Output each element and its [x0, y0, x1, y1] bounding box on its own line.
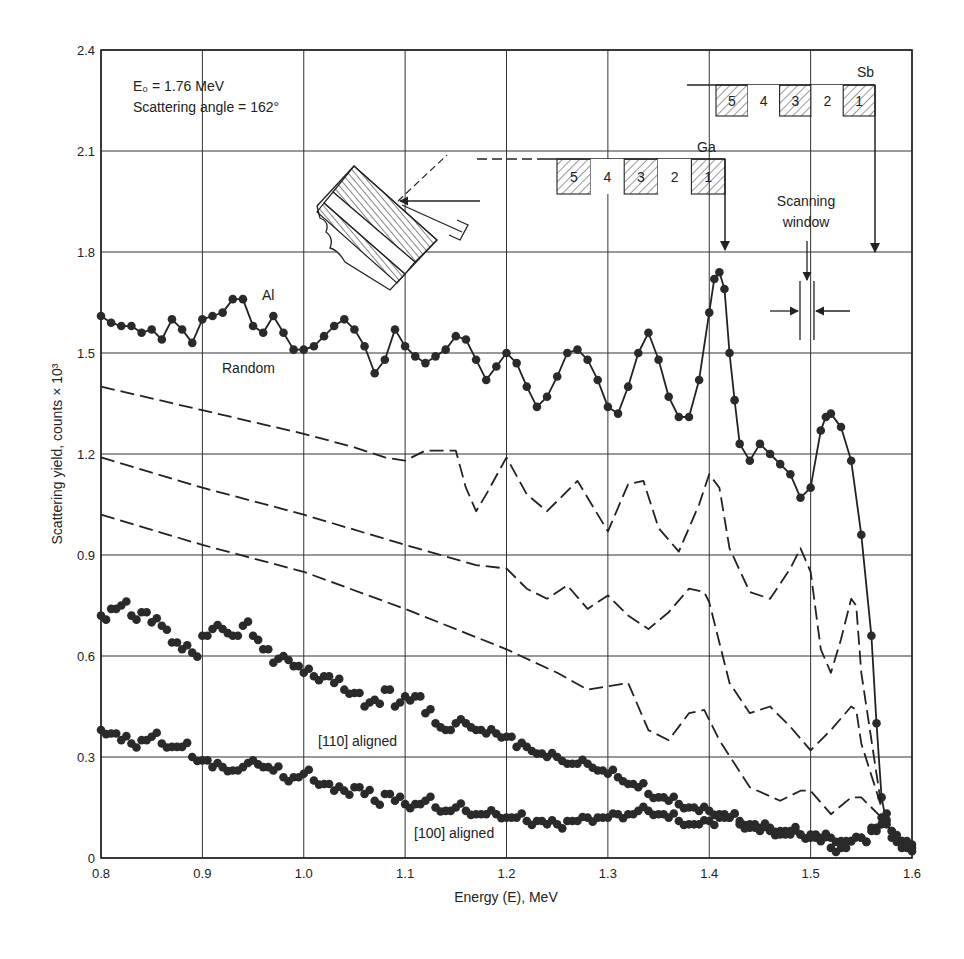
y-tick-label: 2.1	[77, 144, 95, 159]
label-random: Random	[222, 360, 275, 376]
x-tick-label: 1.0	[295, 866, 313, 881]
layer-number: 1	[855, 93, 863, 109]
layer-number: 5	[570, 169, 578, 185]
y-axis-ticks: 00.30.60.91.21.51.82.12.4	[77, 43, 95, 866]
dashed-curve	[101, 387, 882, 808]
y-tick-label: 1.5	[77, 346, 95, 361]
scanning-window-marker	[770, 241, 850, 340]
label-100-aligned: [100] aligned	[414, 825, 494, 841]
x-tick-label: 1.6	[903, 866, 921, 881]
layer-number: 2	[823, 93, 831, 109]
layer-number: 1	[704, 169, 712, 185]
y-tick-label: 1.2	[77, 447, 95, 462]
y-tick-label: 0.9	[77, 548, 95, 563]
x-tick-label: 1.3	[599, 866, 617, 881]
label-110-aligned: [110] aligned	[318, 733, 397, 749]
label-al: Al	[262, 287, 274, 303]
y-tick-label: 0.6	[77, 649, 95, 664]
y-tick-label: 0.3	[77, 750, 95, 765]
annotation-angle: Scattering angle = 162°	[133, 99, 279, 115]
label-scanning: Scanning	[777, 193, 835, 209]
sample-schematic-icon	[317, 155, 480, 290]
x-tick-label: 1.2	[497, 866, 515, 881]
x-axis-ticks: 0.80.91.01.11.21.31.41.51.6	[92, 866, 921, 881]
x-tick-label: 0.9	[193, 866, 211, 881]
annotation-e0: E₀ = 1.76 MeV	[133, 78, 225, 94]
layer-number: 4	[760, 93, 768, 109]
layer-number: 2	[671, 169, 679, 185]
layer-number: 3	[637, 169, 645, 185]
y-tick-label: 0	[88, 851, 95, 866]
x-axis-label: Energy (E), MeV	[454, 889, 558, 905]
y-tick-label: 2.4	[77, 43, 95, 58]
layer-number: 5	[728, 93, 736, 109]
x-tick-label: 1.1	[396, 866, 414, 881]
label-ga: Ga	[697, 139, 716, 155]
ga-layer-diagram: 54321	[477, 159, 725, 250]
y-tick-label: 1.8	[77, 245, 95, 260]
layer-number: 3	[792, 93, 800, 109]
label-sb: Sb	[857, 64, 874, 80]
x-tick-label: 0.8	[92, 866, 110, 881]
label-window: window	[782, 214, 831, 230]
y-axis-label: Scattering yield, counts × 10³	[49, 363, 65, 544]
x-tick-label: 1.5	[802, 866, 820, 881]
layer-number: 4	[604, 169, 612, 185]
x-tick-label: 1.4	[700, 866, 718, 881]
rbs-chart: 00.30.60.91.21.51.82.12.4 0.80.91.01.11.…	[0, 0, 964, 959]
dashed-curve	[101, 515, 882, 818]
dashed-curve	[101, 457, 882, 807]
